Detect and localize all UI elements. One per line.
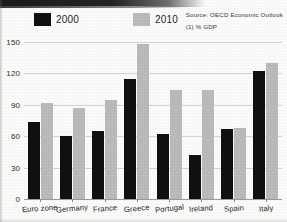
x-axis-tick (40, 199, 41, 202)
source-line-primary: Source: OECD Economic Outlook (186, 10, 283, 19)
source-line-unit: (1) % GDP (186, 22, 283, 31)
x-axis-tick (137, 199, 138, 202)
x-axis-tick-label: France (92, 203, 117, 214)
bar-group (218, 42, 250, 199)
x-axis-tick-label: Spain (223, 203, 244, 214)
legend-label-2000: 2000 (56, 14, 79, 25)
bar-2000 (221, 129, 233, 199)
y-axis-tick-label: 0 (15, 195, 20, 204)
bar-2000 (157, 134, 169, 199)
x-axis-labels: Euro zoneGermanyFranceGreecePortugalIrel… (24, 199, 282, 222)
x-axis-label-cell: Germany (56, 199, 88, 222)
scan-artifact-left-edge (0, 0, 3, 222)
x-axis-tick-label: Ireland (189, 203, 213, 214)
bar-group (185, 42, 217, 199)
x-axis-label-cell: France (89, 199, 121, 222)
y-axis-tick-label: 30 (11, 163, 20, 172)
x-axis-tick (105, 199, 106, 202)
x-axis-tick-label: Greece (124, 203, 150, 215)
x-axis-label-cell: Portugal (153, 199, 185, 222)
y-axis-tick-label: 90 (11, 100, 20, 109)
x-axis-tick (234, 199, 235, 202)
x-axis-tick (72, 199, 73, 202)
legend-swatch-2010 (133, 13, 150, 26)
legend-item-2000: 2000 (34, 13, 79, 26)
x-axis-tick-label: Italy (258, 203, 273, 213)
bar-2010 (73, 108, 85, 199)
bar-2000 (28, 122, 40, 199)
x-axis-label-cell: Greece (121, 199, 153, 222)
bar-2010 (266, 63, 278, 199)
bar-2010 (137, 44, 149, 199)
x-axis-tick (169, 199, 170, 202)
chart-legend: 2000 2010 (34, 13, 178, 26)
x-axis-label-cell: Italy (250, 199, 282, 222)
chart-figure: 2000 2010 Source: OECD Economic Outlook … (0, 0, 287, 222)
x-axis-label-cell: Spain (218, 199, 250, 222)
y-axis-tick-label: 60 (11, 132, 20, 141)
legend-item-2010: 2010 (133, 13, 178, 26)
bar-group (250, 42, 282, 199)
bar-2000 (124, 79, 136, 199)
x-axis-tick-label: Portugal (154, 202, 184, 214)
x-axis-tick-label: Euro zone (22, 203, 58, 214)
legend-label-2010: 2010 (155, 14, 178, 25)
bar-groups (24, 42, 282, 199)
bar-group (24, 42, 56, 199)
y-axis-tick-label: 150 (6, 38, 20, 47)
bar-group (56, 42, 88, 199)
bar-2010 (41, 103, 53, 199)
bar-2010 (105, 100, 117, 199)
scan-artifact-top-band-soft (0, 6, 190, 8)
bar-2000 (60, 136, 72, 199)
x-axis-label-cell: Ireland (185, 199, 217, 222)
source-note: Source: OECD Economic Outlook (1) % GDP (186, 10, 283, 32)
bar-2010 (202, 90, 214, 199)
x-axis-label-cell: Euro zone (24, 199, 56, 222)
bar-2000 (92, 131, 104, 199)
x-axis-tick (266, 199, 267, 202)
bar-2010 (170, 90, 182, 199)
x-axis-tick (201, 199, 202, 202)
bar-group (153, 42, 185, 199)
bar-2000 (253, 71, 265, 199)
plot-area: 0306090120150 (24, 42, 282, 199)
bar-group (89, 42, 121, 199)
bar-2010 (234, 128, 246, 199)
y-axis-tick-label: 120 (6, 69, 20, 78)
x-axis-tick-label: Germany (56, 202, 89, 214)
bar-2000 (189, 155, 201, 199)
legend-swatch-2000 (34, 13, 51, 26)
bar-group (121, 42, 153, 199)
